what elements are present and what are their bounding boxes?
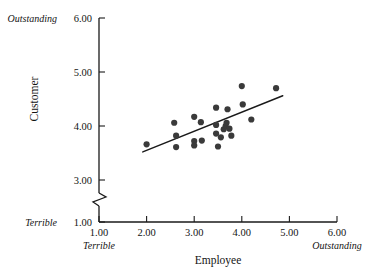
y-axis-title: Customer <box>28 76 40 121</box>
chart-canvas: 1.003.004.005.006.001.002.003.004.005.00… <box>0 0 385 276</box>
data-point <box>213 122 219 128</box>
y-tick-label: 5.00 <box>74 67 92 78</box>
data-point <box>191 114 197 120</box>
y-tick-label: 6.00 <box>74 13 92 24</box>
data-point <box>239 83 245 89</box>
y-axis-break-symbol <box>93 193 106 206</box>
x-tick-label: 3.00 <box>185 227 203 238</box>
data-point <box>144 141 150 147</box>
data-point <box>198 119 204 125</box>
data-point <box>240 101 246 107</box>
x-tick-label: 5.00 <box>280 227 298 238</box>
y-tick-label: 4.00 <box>74 121 92 132</box>
data-point <box>223 120 229 126</box>
data-point <box>199 137 205 143</box>
data-point <box>273 85 279 91</box>
data-point <box>215 143 221 149</box>
x-tick-label: 1.00 <box>90 227 108 238</box>
y-axis-anchor-low-label: Terrible <box>25 217 57 228</box>
data-point <box>213 105 219 111</box>
data-point <box>173 144 179 150</box>
data-point <box>191 142 197 148</box>
y-axis-anchor-high-label: Outstanding <box>8 13 57 24</box>
trend-line <box>143 96 283 152</box>
data-point <box>228 133 234 139</box>
data-point <box>224 106 230 112</box>
data-point <box>226 126 232 132</box>
x-tick-label: 4.00 <box>233 227 251 238</box>
data-point <box>218 134 224 140</box>
data-point <box>171 120 177 126</box>
x-tick-label: 2.00 <box>137 227 155 238</box>
data-point <box>173 133 179 139</box>
y-tick-label: 3.00 <box>74 175 92 186</box>
x-axis-title: Employee <box>195 254 242 267</box>
data-point <box>248 116 254 122</box>
x-axis-anchor-high-label: Outstanding <box>312 240 361 251</box>
y-tick-label: 1.00 <box>74 217 92 228</box>
x-tick-label: 6.00 <box>328 227 346 238</box>
x-axis-anchor-low-label: Terrible <box>83 240 115 251</box>
scatter-chart: 1.003.004.005.006.001.002.003.004.005.00… <box>0 0 385 276</box>
